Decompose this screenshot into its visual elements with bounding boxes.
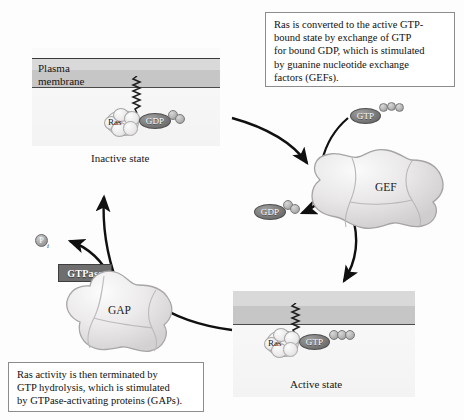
gef-label: GEF bbox=[375, 181, 397, 193]
membrane-inner-line bbox=[32, 87, 220, 88]
membrane-inner-leaflet bbox=[233, 306, 415, 324]
membrane-outer-leaflet bbox=[233, 291, 415, 306]
gdp-nucleotide-released: GDP bbox=[254, 204, 286, 220]
phosphate-circle bbox=[345, 330, 355, 340]
gef-protein: GEF bbox=[300, 148, 448, 230]
gdp-nucleotide-inactive: GDP bbox=[139, 113, 171, 129]
arrow-inactive-to-gef bbox=[232, 118, 307, 163]
plasma-membrane-label: Plasma membrane bbox=[38, 62, 84, 87]
diagram-canvas: Plasma membrane Ras GDP Inactive state R… bbox=[0, 0, 464, 420]
ras-label-inactive: Ras bbox=[108, 117, 122, 127]
ras-label-active: Ras bbox=[268, 338, 282, 348]
gap-protein: GAP bbox=[60, 268, 182, 354]
gap-label: GAP bbox=[108, 304, 131, 316]
inactive-state-label: Inactive state bbox=[91, 152, 149, 164]
phosphate-circle bbox=[290, 204, 300, 214]
inorganic-phosphate-subscript: i bbox=[47, 242, 49, 250]
membrane-inner-line bbox=[233, 324, 415, 325]
gef-callout-box: Ras is converted to the active GTP- boun… bbox=[265, 12, 455, 87]
gtp-nucleotide-active: GTP bbox=[299, 334, 330, 350]
phosphate-circle bbox=[395, 103, 404, 112]
gtp-nucleotide-free: GTP bbox=[350, 108, 381, 124]
phosphate-circle bbox=[175, 114, 185, 124]
active-state-label: Active state bbox=[290, 378, 342, 390]
gap-callout-box: Ras activity is then terminated by GTP h… bbox=[8, 362, 204, 412]
